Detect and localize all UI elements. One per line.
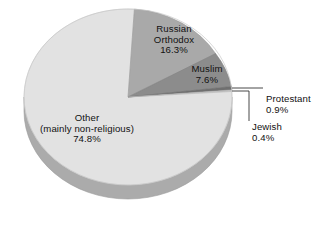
pie-value-muslim: 7.6% — [180, 75, 234, 86]
pie-value-russian-orthodox: 16.3% — [143, 45, 205, 56]
callout-leader-lines — [232, 88, 263, 121]
pie-value-protestant: 0.9% — [266, 105, 311, 116]
pie-label-other: Other (mainly non-religious) 74.8% — [26, 113, 148, 145]
pie-value-other: 74.8% — [26, 134, 148, 145]
pie-label-protestant: Protestant 0.9% — [266, 94, 311, 115]
pie-value-jewish: 0.4% — [252, 133, 282, 144]
pie-chart: Russian Orthodox 16.3% Muslim 7.6% Other… — [0, 0, 321, 234]
leader-line-jewish — [232, 91, 249, 121]
pie-label-jewish: Jewish 0.4% — [252, 122, 282, 143]
pie-label-russian-orthodox: Russian Orthodox 16.3% — [143, 24, 205, 56]
pie-label-muslim: Muslim 7.6% — [180, 64, 234, 85]
